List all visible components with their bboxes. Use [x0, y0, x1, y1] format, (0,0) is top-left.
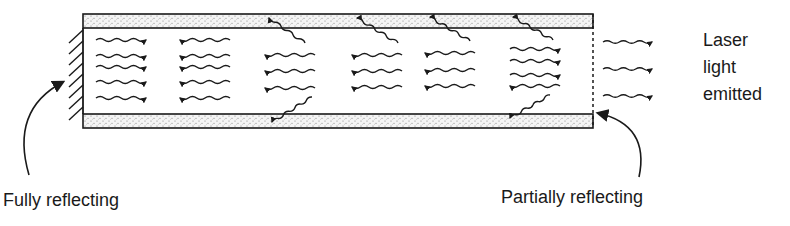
right-pointer-arrow: [598, 113, 641, 177]
hatch-line: [69, 41, 83, 54]
hatch-line: [69, 96, 83, 109]
photon-waves: [96, 38, 560, 99]
hatch-line: [69, 30, 83, 43]
photon-wave-left: [425, 51, 475, 54]
mirrors: [69, 14, 593, 128]
photon-wave-right: [510, 59, 560, 62]
photon-wave-right: [510, 47, 560, 50]
emitted-photon-wave: [603, 68, 652, 71]
photon-wave-left: [265, 53, 315, 56]
photon-wave-right: [96, 96, 146, 99]
photon-column-4: [352, 53, 402, 88]
mirror-hatching: [69, 30, 83, 120]
tube-bottom-wall: [83, 114, 593, 128]
photon-wave-right: [96, 80, 146, 83]
photon-wave-left: [425, 68, 475, 71]
photon-wave-left: [180, 38, 230, 41]
left-pointer-arrow: [24, 82, 63, 175]
photon-wave-left: [180, 80, 230, 83]
fully-reflecting-label: Fully reflecting: [3, 187, 119, 214]
photon-wave-left: [352, 53, 402, 56]
emitted-photon-wave: [603, 95, 652, 98]
hatch-line: [69, 74, 83, 87]
photon-wave-left: [180, 65, 230, 68]
photon-column-2: [180, 38, 230, 99]
hatch-line: [69, 107, 83, 120]
emitted-laser-light: [603, 41, 652, 98]
photon-wave-left: [510, 84, 560, 87]
photon-wave-right: [96, 38, 146, 41]
photon-wave-right: [96, 65, 146, 68]
hatch-line: [69, 85, 83, 98]
photon-wave-right: [96, 54, 146, 57]
laser-tube: [83, 14, 593, 128]
photon-column-3: [265, 53, 315, 89]
emitted-photon-wave: [603, 41, 652, 44]
laser-label-line-3: emitted: [703, 81, 762, 108]
photon-wave-left: [265, 69, 315, 72]
hatch-line: [69, 63, 83, 76]
photon-wave-left: [352, 85, 402, 88]
photon-wave-left: [425, 84, 475, 87]
photon-wave-left: [265, 86, 315, 89]
photon-wave-right: [510, 73, 560, 76]
hatch-line: [69, 52, 83, 65]
photon-column-1: [96, 38, 146, 99]
photon-wave-left: [180, 54, 230, 57]
laser-label-line-2: light: [703, 54, 762, 81]
photon-column-5: [425, 51, 475, 87]
photon-wave-left: [180, 96, 230, 99]
photon-column-6: [510, 47, 560, 87]
partially-reflecting-label: Partially reflecting: [501, 184, 643, 211]
photon-wave-left: [352, 69, 402, 72]
laser-light-emitted-label: Laser light emitted: [703, 27, 762, 108]
laser-label-line-1: Laser: [703, 27, 762, 54]
tube-top-wall: [83, 14, 593, 28]
